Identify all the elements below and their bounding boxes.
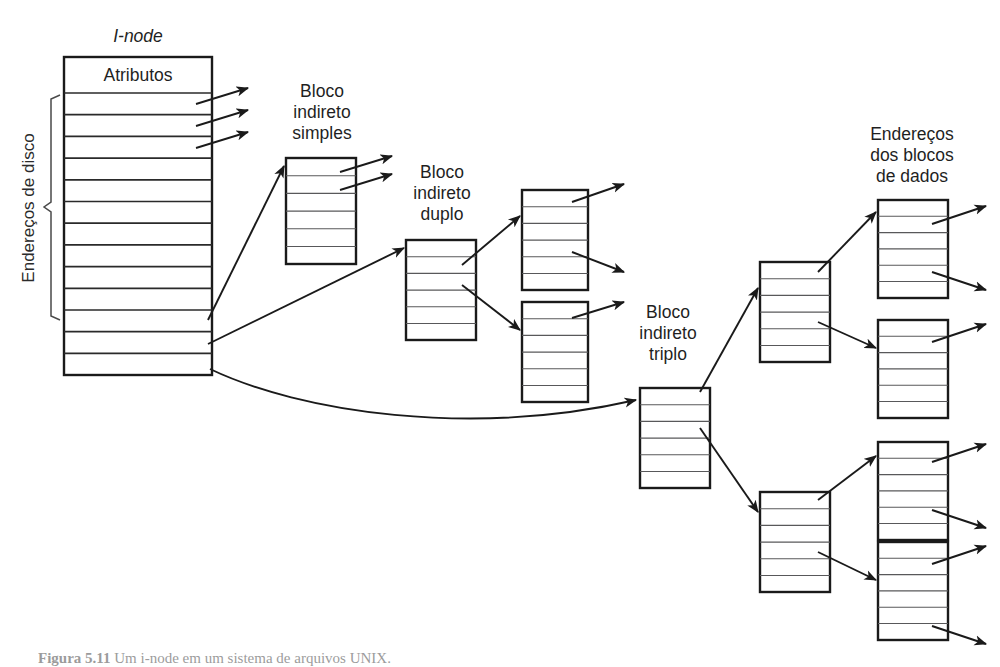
triple-indirect-label: Bloco indireto triplo: [639, 302, 696, 364]
inode-block: Atributos: [64, 57, 212, 375]
data-block-addresses-label: Endereços dos blocos de dados: [870, 124, 954, 186]
figure-canvas: I-node Atributos Endereços de disco: [0, 0, 1000, 667]
data-address-block-1: [878, 200, 948, 298]
single-indirect-label-line3: simples: [292, 123, 352, 143]
triple-indirect-label-line3: triplo: [649, 344, 687, 364]
figure-caption: Figura 5.11 Um i-node em um sistema de a…: [38, 653, 391, 667]
data-addresses-label-line2: dos blocos: [870, 145, 954, 165]
single-indirect-label-line2: indireto: [293, 102, 350, 122]
single-indirect-label-line1: Bloco: [300, 81, 344, 101]
data-address-block-3: [878, 442, 948, 540]
data-address-block-2: [878, 320, 948, 418]
single-indirect-label: Bloco indireto simples: [292, 81, 352, 143]
single-indirect-block: [286, 158, 356, 264]
inode-attributes-label: Atributos: [103, 65, 172, 85]
figure-caption-prefix: Figura 5.11: [38, 653, 111, 666]
triple-indirect-child-bottom: [760, 492, 830, 592]
double-indirect-block: [406, 240, 476, 340]
disk-addresses-label: Endereços de disco: [19, 133, 38, 282]
double-indirect-label-line3: duplo: [421, 204, 464, 224]
double-indirect-child-top: [522, 190, 588, 290]
double-indirect-label-line1: Bloco: [420, 162, 464, 182]
inode-diagram: I-node Atributos Endereços de disco: [0, 0, 1000, 667]
inode-title: I-node: [113, 26, 163, 46]
data-address-block-4: [878, 542, 948, 640]
triple-indirect-child-top: [760, 262, 830, 362]
data-addresses-label-line3: de dados: [876, 166, 948, 186]
triple-indirect-block: [640, 388, 710, 488]
arrow-inode-to-single-indirect: [208, 166, 284, 320]
double-indirect-label-line2: indireto: [413, 183, 470, 203]
triple-indirect-label-line2: indireto: [639, 323, 696, 343]
figure-caption-text: Um i-node em um sistema de arquivos UNIX…: [114, 653, 391, 666]
double-indirect-label: Bloco indireto duplo: [413, 162, 470, 224]
triple-indirect-label-line1: Bloco: [646, 302, 690, 322]
figure-caption-band: Figura 5.11 Um i-node em um sistema de a…: [0, 653, 1000, 667]
data-addresses-label-line1: Endereços: [870, 124, 954, 144]
disk-addresses-bracket: [44, 95, 60, 320]
